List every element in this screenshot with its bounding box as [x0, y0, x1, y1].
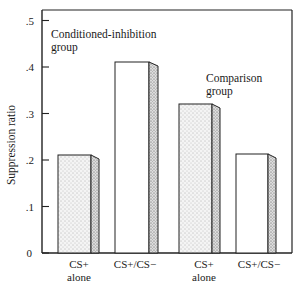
x-label-4-line1: CS+/CS−: [238, 258, 280, 270]
x-label-3-line2: alone: [192, 271, 216, 283]
x-label-2-line1: CS+/CS−: [114, 258, 156, 270]
bar-ci-cs-plus-alone: [58, 155, 99, 253]
group2-line2: group: [206, 85, 233, 98]
tick-label-0-4: .4: [26, 61, 35, 73]
group1-line1: Conditioned-inhibition: [51, 28, 157, 40]
bar-comp-cs-plus-cs-minus: [236, 154, 276, 253]
y-tick-labels: 0 .1 .2 .3 .4 .5: [26, 15, 35, 260]
group2-line1: Comparison: [206, 72, 262, 85]
suppression-ratio-chart: 0 .1 .2 .3 .4 .5 Suppression ratio Condi…: [0, 0, 301, 286]
annotation-comparison-group: Comparison group: [206, 72, 262, 98]
y-axis-label: Suppression ratio: [5, 105, 18, 185]
x-label-1-line1: CS+: [69, 258, 89, 270]
tick-label-0-2: .2: [26, 154, 34, 166]
tick-label-0: 0: [27, 247, 33, 259]
bar-comp-cs-plus-alone: [179, 104, 220, 253]
bar-ci-cs-plus-cs-minus: [115, 62, 158, 253]
tick-label-0-1: .1: [26, 201, 34, 213]
group1-line2: group: [51, 41, 78, 54]
x-label-3-line1: CS+: [194, 258, 214, 270]
tick-label-0-3: .3: [26, 108, 35, 120]
x-tick-labels: CS+ alone CS+/CS− CS+ alone CS+/CS−: [67, 258, 280, 283]
x-label-1-line2: alone: [67, 271, 91, 283]
tick-label-0-5: .5: [26, 15, 35, 27]
annotation-conditioned-inhibition-group: Conditioned-inhibition group: [51, 28, 157, 54]
y-ticks: [42, 21, 49, 254]
